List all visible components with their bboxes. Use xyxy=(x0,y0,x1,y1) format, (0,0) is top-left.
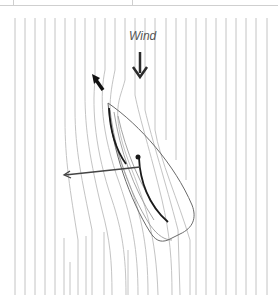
wind-label: Wind xyxy=(129,29,156,43)
boat-hull xyxy=(108,103,194,241)
force-arrow xyxy=(64,167,140,178)
diagram-frame: Wind xyxy=(0,0,278,302)
sailboat-airflow-diagram xyxy=(0,0,278,302)
flow-arrow xyxy=(92,74,103,90)
